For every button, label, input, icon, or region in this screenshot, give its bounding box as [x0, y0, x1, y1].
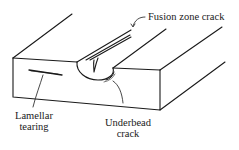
- lamellar-tearing-leader: [33, 75, 43, 107]
- underbead-crack-label-line2: crack: [100, 128, 156, 139]
- underbead-crack-leader: [113, 81, 123, 103]
- lamellar-tearing-label-line1: Lamellar: [12, 110, 56, 121]
- fusion-zone-crack-mark: [94, 58, 98, 72]
- weld-bead: [77, 29, 166, 80]
- fusion-zone-crack-label: Fusion zone crack: [148, 11, 224, 22]
- plate-block: [13, 14, 225, 110]
- lamellar-tearing-mark: [29, 70, 62, 75]
- lamellar-tearing-label-line2: tearing: [12, 121, 56, 132]
- underbead-crack-label-line1: Underbead: [100, 117, 156, 128]
- underbead-crack-label: Underbead crack: [100, 117, 156, 139]
- lamellar-tearing-label: Lamellar tearing: [12, 110, 56, 132]
